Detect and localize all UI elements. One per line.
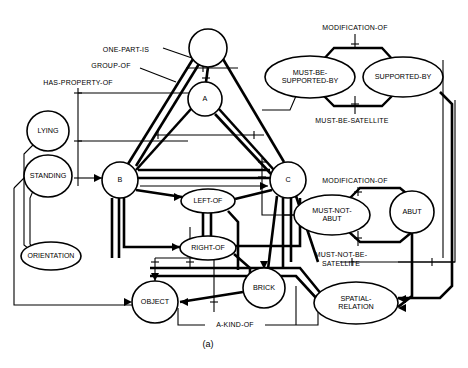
node-label: ORIENTATION xyxy=(28,252,75,259)
node-label: SUPPORTED-BY xyxy=(282,76,339,85)
network-canvas: ABCLYINGSTANDINGORIENTATIONLEFT-OFRIGHT-… xyxy=(0,0,468,368)
arrowhead-standing xyxy=(94,174,102,182)
node-label: ABUT xyxy=(402,207,422,216)
link-leftof-c xyxy=(235,190,272,199)
edge-label-modification-of-top: MODIFICATION-OF xyxy=(322,24,387,31)
node-label: A xyxy=(203,94,208,103)
edge-label-must-not-be-sat-1: MUST-NOT-BE- xyxy=(315,251,368,258)
node-orientation[interactable]: ORIENTATION xyxy=(21,242,81,270)
edge-label-modification-of-bot: MODIFICATION-OF xyxy=(322,177,387,184)
node-label: RELATION xyxy=(338,302,373,311)
node-label: B xyxy=(118,175,123,184)
node-label: SUPPORTED-BY xyxy=(375,72,432,81)
link-a-to-c xyxy=(219,109,274,170)
node-label: LYING xyxy=(37,126,58,135)
link-top-to-b2 xyxy=(136,64,199,166)
node-b[interactable]: B xyxy=(102,162,138,198)
node-mustnotabut[interactable]: MUST-NOT-ABUT xyxy=(294,195,370,235)
node-label: STANDING xyxy=(30,171,67,180)
link-akindof-left xyxy=(178,308,205,325)
node-label: OBJECT xyxy=(141,297,170,306)
arrowhead-object-right xyxy=(180,298,188,306)
node-c[interactable]: C xyxy=(270,162,306,198)
link-a-to-c2 xyxy=(215,114,272,175)
node-abut[interactable]: ABUT xyxy=(390,191,434,233)
node-object[interactable]: OBJECT xyxy=(132,281,178,323)
semantic-network-figure: ABCLYINGSTANDINGORIENTATIONLEFT-OFRIGHT-… xyxy=(0,0,468,368)
edge-label-a-kind-of: A-KIND-OF xyxy=(216,321,254,328)
arrowhead-c-in xyxy=(260,182,268,190)
link-one-part-is-leader xyxy=(163,48,192,58)
node-top[interactable] xyxy=(189,29,227,67)
node-label: LEFT-OF xyxy=(194,197,223,204)
figure-caption: (a) xyxy=(203,339,214,349)
link-b-rightof xyxy=(124,198,180,247)
link-c-mbsup xyxy=(262,96,296,110)
edge-label-must-not-be-sat-2: SATELLITE xyxy=(322,260,360,267)
link-top-to-a xyxy=(206,67,208,82)
node-rightof[interactable]: RIGHT-OF xyxy=(180,236,236,260)
edge-label-group-of: GROUP-OF xyxy=(91,62,130,69)
node-spatialrel[interactable]: SPATIAL-RELATION xyxy=(314,282,398,324)
node-label: C xyxy=(285,175,290,184)
node-label: ABUT xyxy=(322,214,342,223)
node-lying[interactable]: LYING xyxy=(27,111,69,151)
node-standing[interactable]: STANDING xyxy=(24,155,72,197)
node-a[interactable]: A xyxy=(188,82,222,116)
edge-label-one-part-is: ONE-PART-IS xyxy=(103,46,149,53)
link-brick-object xyxy=(180,292,243,302)
arrowhead-rightof-in xyxy=(172,243,180,251)
arrowhead-spatial-2 xyxy=(398,295,406,303)
node-label: BRICK xyxy=(253,283,275,292)
edge-label-has-property-of: HAS-PROPERTY-OF xyxy=(43,79,113,86)
node-shape-circle xyxy=(189,29,227,67)
link-top-to-b xyxy=(128,59,193,164)
node-brick[interactable]: BRICK xyxy=(243,268,285,308)
node-leftof[interactable]: LEFT-OF xyxy=(181,189,235,213)
edge-label-must-be-satellite: MUST-BE-SATELLITE xyxy=(315,117,388,124)
node-mustbesup[interactable]: MUST-BE-SUPPORTED-BY xyxy=(265,56,355,98)
link-c-brick xyxy=(268,196,277,269)
node-supportedby[interactable]: SUPPORTED-BY xyxy=(363,57,443,97)
link-group-of-leader xyxy=(140,68,176,82)
node-label: RIGHT-OF xyxy=(191,244,224,251)
